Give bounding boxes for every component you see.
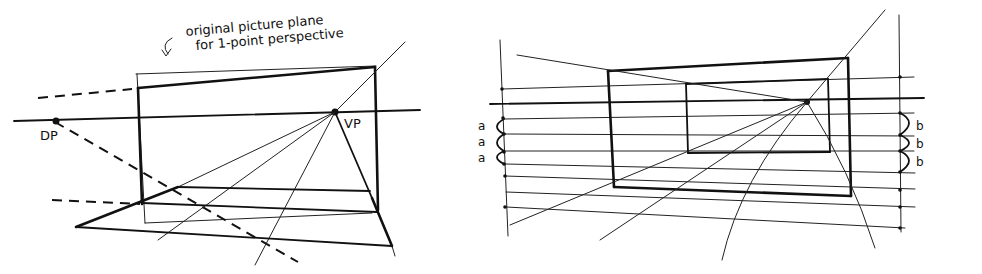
- label-b-1: b: [916, 119, 924, 133]
- dp-diagonal-dashed: [55, 122, 298, 262]
- inner-rect-left: [686, 84, 688, 153]
- floor-front-edge: [76, 227, 392, 246]
- label-b-2: b: [916, 137, 924, 151]
- dashed-extension-bottom: [52, 200, 140, 204]
- floor-right-edge: [372, 198, 392, 246]
- inner-rect-bottom: [688, 152, 830, 153]
- orthogonal-top-right: [807, 10, 885, 102]
- orthogonal-top-right: [335, 42, 405, 112]
- outer-rect-left: [608, 71, 614, 187]
- floor-line-1: [178, 187, 370, 191]
- right-brackets: [900, 113, 909, 172]
- floor-line-2: [142, 203, 377, 212]
- orthogonal-1: [178, 112, 335, 187]
- label-a-3: a: [478, 151, 485, 165]
- dp-label: DP: [40, 128, 58, 143]
- label-a-2: a: [478, 135, 485, 149]
- outer-rect-top: [608, 58, 848, 71]
- right-figure-scaled-grid: a a a b b b: [478, 10, 924, 260]
- left-figure-one-point-perspective: original picture plane for 1-point persp…: [14, 12, 420, 265]
- orthogonal-2: [600, 102, 807, 240]
- original-picture-plane-bottom: [145, 213, 372, 223]
- vp-label: VP: [344, 116, 361, 131]
- dashed-extension-top: [38, 89, 132, 98]
- rect-left-edge: [138, 88, 142, 204]
- inner-rect-top: [686, 79, 828, 84]
- rect-right-edge: [375, 67, 378, 210]
- annotation-arrow: [165, 38, 172, 54]
- floor-right-tail: [392, 246, 395, 256]
- dp-point: [53, 118, 60, 125]
- perspective-sketches: original picture plane for 1-point persp…: [0, 0, 982, 274]
- label-a-1: a: [478, 119, 485, 133]
- label-b-3: b: [916, 155, 924, 169]
- orthogonal-3: [722, 102, 807, 260]
- outer-rect-bottom: [614, 187, 851, 196]
- orthogonal-2: [158, 112, 335, 240]
- right-measuring-line: [899, 15, 901, 232]
- left-brackets: [497, 119, 504, 164]
- floor-left-edge: [76, 187, 178, 227]
